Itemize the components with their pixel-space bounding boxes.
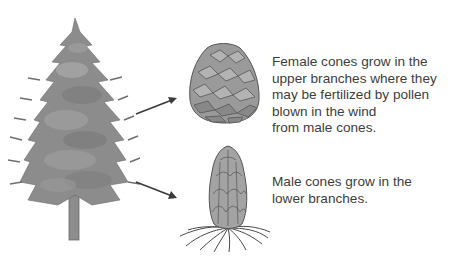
male-cone-caption: Male cones grow in the lower branches.	[272, 174, 412, 207]
female-caption-line: upper branches where they	[272, 71, 437, 88]
female-cone-caption: Female cones grow in the upper branches …	[272, 54, 437, 137]
arrow-to-male-cone-icon	[136, 182, 177, 199]
pine-tree-icon	[8, 18, 140, 240]
female-cone-icon	[190, 44, 259, 124]
male-caption-line: Male cones grow in the	[272, 174, 412, 191]
arrow-to-female-cone-icon	[136, 97, 177, 114]
male-cone-icon	[180, 146, 270, 252]
female-caption-line: may be fertilized by pollen	[272, 87, 437, 104]
female-caption-line: Female cones grow in the	[272, 54, 437, 71]
male-caption-line: lower branches.	[272, 191, 412, 208]
female-caption-line: from male cones.	[272, 120, 437, 137]
female-caption-line: blown in the wind	[272, 104, 437, 121]
